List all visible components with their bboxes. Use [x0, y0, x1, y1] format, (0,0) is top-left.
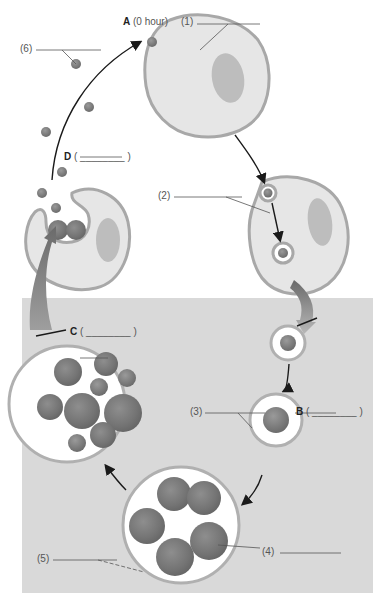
- inclusion-dividing: [123, 467, 239, 583]
- label-6: (6): [20, 43, 32, 55]
- host-cell-d-release: [26, 59, 130, 290]
- stage-a-label: A (0 hour): [123, 16, 168, 28]
- label-2: (2): [158, 190, 170, 202]
- stage-d-label: D ( ________ ): [64, 151, 131, 163]
- label-3: (3): [190, 406, 202, 418]
- inclusion-b: [250, 394, 302, 446]
- chlamydia-life-cycle-diagram: A (0 hour) (1) (6) D ( ________ ) (2) C …: [0, 0, 387, 610]
- host-cell-entry: [249, 177, 348, 294]
- label-4: (4): [262, 546, 274, 558]
- stage-c-label: C ( ________ ): [70, 326, 137, 338]
- label-5: (5): [37, 553, 49, 565]
- early-inclusion: [271, 326, 305, 360]
- host-cell-a: [145, 15, 269, 137]
- label-1: (1): [181, 16, 193, 28]
- stage-b-label: B ( ________ ): [296, 406, 363, 418]
